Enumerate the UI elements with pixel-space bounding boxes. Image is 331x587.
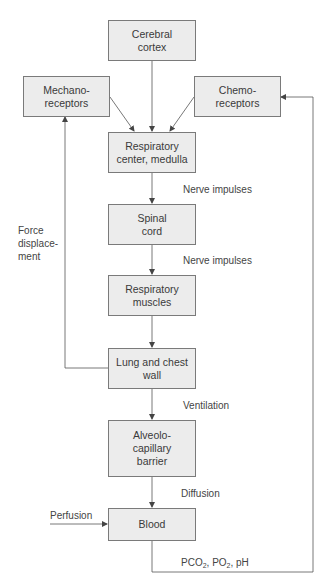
node-blood: Blood: [108, 508, 196, 541]
label-diffusion: Diffusion: [181, 487, 220, 500]
node-mechanoreceptors: Mechano- receptors: [23, 76, 110, 117]
label-nerve-impulses-2: Nerve impulses: [183, 254, 252, 267]
edge-chemo-center: [170, 97, 194, 131]
node-spinal-cord: Spinal cord: [108, 204, 196, 245]
node-cerebral-cortex: Cerebral cortex: [108, 20, 196, 61]
label-ph: , pH: [231, 557, 249, 568]
edge-lung-mechano: [65, 117, 108, 368]
label-perfusion: Perfusion: [50, 509, 92, 522]
label-pco: PCO: [181, 557, 203, 568]
label-nerve-impulses-1: Nerve impulses: [183, 183, 252, 196]
node-alveolo-capillary-barrier: Alveolo- capillary barrier: [108, 420, 196, 477]
node-lung-chest-wall: Lung and chest wall: [108, 348, 196, 389]
node-chemoreceptors: Chemo- receptors: [194, 76, 281, 117]
node-respiratory-muscles: Respiratory muscles: [108, 275, 196, 316]
label-force-displacement: Force displace- ment: [18, 224, 58, 263]
node-respiratory-center: Respiratory center, medulla: [108, 132, 196, 173]
label-ventilation: Ventilation: [183, 399, 229, 412]
edge-mechano-center: [110, 97, 134, 131]
label-po: , PO: [207, 557, 227, 568]
label-blood-gases: PCO2, PO2, pH: [181, 556, 249, 572]
